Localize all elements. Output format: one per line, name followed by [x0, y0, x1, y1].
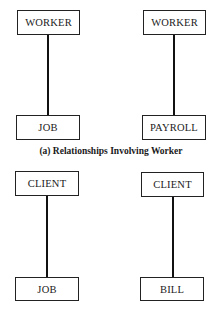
- entity-label: BILL: [160, 284, 184, 295]
- entity-label: WORKER: [151, 17, 198, 28]
- relationship-line: [173, 35, 175, 115]
- entity-label: JOB: [38, 122, 57, 133]
- relationship-line: [172, 197, 174, 277]
- relationship-line: [47, 35, 49, 115]
- entity-box-bill: BILL: [140, 277, 204, 301]
- entity-box-worker-left: WORKER: [17, 10, 80, 35]
- entity-label: WORKER: [25, 17, 72, 28]
- entity-box-job-bottom: JOB: [15, 277, 79, 301]
- entity-label: JOB: [37, 284, 56, 295]
- entity-box-client-left: CLIENT: [15, 171, 79, 196]
- entity-label: CLIENT: [28, 178, 67, 189]
- caption-a: (a) Relationships Involving Worker: [0, 146, 222, 156]
- entity-box-job-top: JOB: [16, 115, 80, 140]
- entity-box-worker-right: WORKER: [143, 10, 206, 35]
- entity-box-client-right: CLIENT: [141, 172, 204, 197]
- entity-label: CLIENT: [153, 179, 192, 190]
- relationship-line: [46, 196, 48, 277]
- entity-label: PAYROLL: [150, 122, 198, 133]
- entity-box-payroll: PAYROLL: [142, 115, 206, 140]
